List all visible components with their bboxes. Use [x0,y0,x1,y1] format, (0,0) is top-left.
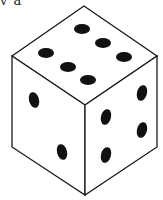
pip-top [74,24,90,34]
pip-top [60,62,76,72]
die-diagram [0,0,163,200]
pip-top [80,75,96,85]
pip-top [116,52,132,62]
pip-top [95,38,111,48]
pip-top [38,48,54,58]
